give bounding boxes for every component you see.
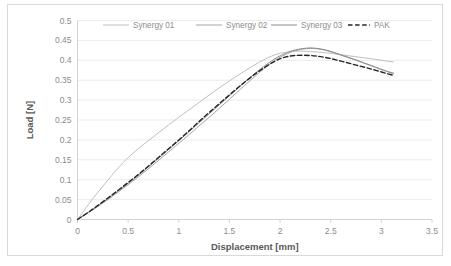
x-tick-label: 1.5 xyxy=(224,226,236,236)
x-tick-label: 2.5 xyxy=(325,226,337,236)
x-tick-label: 3.5 xyxy=(426,226,438,236)
y-tick-label: 0.5 xyxy=(60,16,72,26)
y-tick-label: 0.2 xyxy=(60,135,72,145)
x-tick-label: 0 xyxy=(75,226,80,236)
line-chart: 00.050.10.150.20.250.30.350.40.450.500.5… xyxy=(0,0,451,266)
series-line-synergy-02 xyxy=(78,48,394,219)
x-tick-label: 1 xyxy=(176,226,181,236)
chart-container: 00.050.10.150.20.250.30.350.40.450.500.5… xyxy=(0,0,451,266)
y-axis-title: Load [N] xyxy=(24,101,35,140)
legend-label-synergy-03[interactable]: Synergy 03 xyxy=(301,21,343,30)
x-tick-label: 2 xyxy=(278,226,283,236)
y-tick-label: 0.45 xyxy=(55,35,72,45)
series-line-synergy-03 xyxy=(78,48,394,220)
legend-label-synergy-02[interactable]: Synergy 02 xyxy=(226,21,268,30)
series-line-synergy-01 xyxy=(78,51,394,219)
y-tick-label: 0.05 xyxy=(55,195,72,205)
legend-label-pak[interactable]: PAK xyxy=(374,21,390,30)
legend-label-synergy-01[interactable]: Synergy 01 xyxy=(133,21,175,30)
y-tick-label: 0.25 xyxy=(55,115,72,125)
x-axis-title: Displacement [mm] xyxy=(211,241,299,252)
y-tick-label: 0.35 xyxy=(55,75,72,85)
y-tick-label: 0.1 xyxy=(60,175,72,185)
y-tick-label: 0.15 xyxy=(55,155,72,165)
x-tick-label: 3 xyxy=(379,226,384,236)
x-tick-label: 0.5 xyxy=(122,226,134,236)
y-tick-label: 0 xyxy=(67,215,72,225)
y-tick-label: 0.3 xyxy=(60,95,72,105)
y-tick-label: 0.4 xyxy=(60,55,72,65)
